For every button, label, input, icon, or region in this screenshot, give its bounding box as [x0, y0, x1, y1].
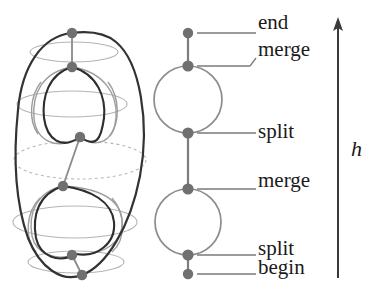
- leader-lines: [197, 33, 256, 274]
- surface-group: [13, 28, 146, 280]
- label-split-upper: split: [258, 121, 294, 142]
- reeb-node-split2: [182, 249, 193, 260]
- label-end: end: [258, 12, 288, 33]
- reeb-node-split1: [182, 127, 193, 138]
- surface-node-merge2: [58, 181, 68, 191]
- upper-loop: [154, 66, 222, 133]
- label-begin: begin: [258, 257, 305, 278]
- figure-canvas: [0, 0, 389, 294]
- lower-loop: [155, 189, 221, 255]
- height-axis-group: [333, 17, 343, 278]
- label-merge-lower: merge: [258, 170, 310, 191]
- height-axis-symbol: h: [351, 138, 362, 160]
- reeb-node-end: [183, 28, 193, 38]
- surface-node-split2: [67, 250, 77, 260]
- reeb-node-begin: [183, 269, 193, 279]
- reeb-graph-figure: end merge split merge split begin h: [0, 0, 389, 294]
- surface-hole-outlines: [35, 67, 114, 258]
- reeb-node-merge2: [182, 183, 193, 194]
- leader-merge1-bend: [250, 58, 256, 66]
- reeb-node-merge1: [182, 60, 193, 71]
- label-merge-upper: merge: [258, 39, 310, 60]
- surface-node-begin: [77, 270, 87, 280]
- surface-node-merge1: [67, 62, 77, 72]
- surface-lower-handle: [28, 186, 122, 257]
- surface-node-end: [67, 28, 77, 38]
- surface-node-split1: [75, 132, 85, 142]
- reeb-graph-group: [154, 28, 256, 279]
- surface-critical-nodes: [58, 28, 87, 280]
